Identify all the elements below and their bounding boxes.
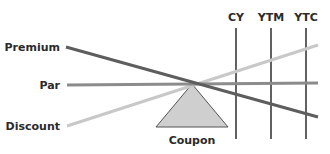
bond-yield-diagram: Premium Par Discount CY YTM YTC Coupon xyxy=(0,0,330,154)
label-ytc: YTC xyxy=(293,11,318,24)
label-ytm: YTM xyxy=(257,11,284,24)
label-coupon: Coupon xyxy=(169,134,216,147)
label-discount: Discount xyxy=(6,120,60,133)
label-premium: Premium xyxy=(5,41,60,54)
label-cy: CY xyxy=(228,11,245,24)
label-par: Par xyxy=(39,79,60,92)
